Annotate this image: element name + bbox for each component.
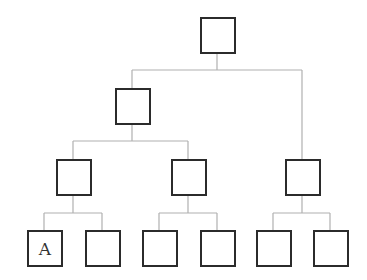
tree-leaf-5 bbox=[256, 230, 292, 267]
tree-node-level3-b bbox=[171, 159, 207, 196]
tree-node-level3-a bbox=[56, 159, 92, 196]
tree-leaf-a: A bbox=[27, 230, 63, 267]
tree-node-level2-left bbox=[115, 88, 151, 125]
tree-node-level3-c bbox=[285, 159, 321, 196]
tree-leaf-2 bbox=[85, 230, 121, 267]
tree-leaf-6 bbox=[313, 230, 349, 267]
tree-leaf-4 bbox=[200, 230, 236, 267]
tree-node-root bbox=[200, 17, 236, 54]
tree-leaf-3 bbox=[142, 230, 178, 267]
